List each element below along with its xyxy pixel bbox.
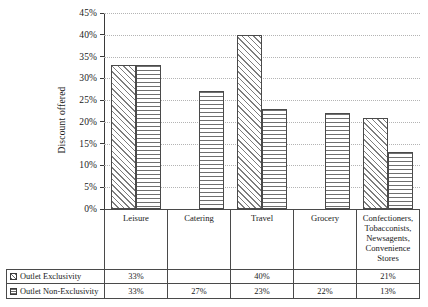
bar	[262, 109, 287, 209]
table-value-cell: 33%	[105, 270, 168, 283]
legend-swatch-non-exclusivity-icon	[10, 288, 17, 295]
category-label-line: Catering	[168, 213, 230, 223]
bar-group	[230, 13, 293, 209]
category-label-line: Stores	[357, 253, 419, 263]
category-label-line: Convenience	[357, 243, 419, 253]
table-value-cell: 33%	[105, 284, 168, 298]
category-label: Travel	[231, 210, 294, 269]
bar-group	[104, 13, 167, 209]
bar	[111, 65, 136, 209]
y-tick-label: 15%	[79, 139, 100, 149]
y-tick: 15%	[79, 138, 104, 150]
y-tick: 20%	[79, 116, 104, 128]
bar	[199, 91, 224, 209]
y-tick-label: 20%	[79, 117, 100, 127]
category-label: Catering	[168, 210, 231, 269]
legend-series-name: Outlet Exclusivity	[20, 272, 81, 281]
table-value-cell: 21%	[357, 270, 419, 283]
table-value-cell: 27%	[168, 284, 231, 298]
category-label-line: Newsagents,	[357, 233, 419, 243]
y-tick-label: 40%	[79, 30, 100, 40]
category-label-line: Confectioners,	[357, 213, 419, 223]
y-tick: 40%	[79, 29, 104, 41]
discount-offered-bar-chart: Discount offered 45%40%35%30%25%20%15%10…	[0, 0, 428, 307]
y-tick: 30%	[79, 72, 104, 84]
y-tick: 45%	[79, 7, 104, 19]
y-tick: 25%	[79, 94, 104, 106]
bar-group	[167, 13, 230, 209]
table-value-cell: 22%	[294, 284, 357, 298]
y-axis-ticks: 45%40%35%30%25%20%15%10%5%0%	[0, 13, 104, 209]
category-label-line: Travel	[231, 213, 293, 223]
table-value-cell	[294, 270, 357, 283]
category-label: Confectioners,Tobacconists,Newsagents,Co…	[357, 210, 419, 269]
bar	[136, 65, 161, 209]
category-label: Leisure	[105, 210, 168, 269]
y-tick: 5%	[84, 181, 104, 193]
y-tick-label: 30%	[79, 73, 100, 83]
table-value-cell: 40%	[231, 270, 294, 283]
y-tick-label: 45%	[79, 8, 100, 18]
category-label: Grocery	[294, 210, 357, 269]
y-tick: 0%	[84, 203, 104, 215]
table-value-cell: 23%	[231, 284, 294, 298]
bar	[237, 35, 262, 209]
y-tick-label: 5%	[84, 182, 100, 192]
bar	[363, 118, 388, 209]
y-tick-label: 25%	[79, 95, 100, 105]
table-value-cell	[168, 270, 231, 283]
bar	[325, 113, 350, 209]
table-value-cell: 13%	[357, 284, 419, 298]
category-axis-table: LeisureCateringTravelGroceryConfectioner…	[104, 209, 420, 269]
y-tick-label: 10%	[79, 160, 100, 170]
legend-cell: Outlet Exclusivity	[7, 270, 105, 283]
legend-cell: Outlet Non-Exclusivity	[7, 284, 105, 298]
bars-layer	[104, 13, 420, 209]
bar-group	[357, 13, 420, 209]
category-label-line: Grocery	[294, 213, 356, 223]
legend-swatch-exclusivity-icon	[10, 273, 17, 280]
series-data-table: Outlet Exclusivity33%40%21%Outlet Non-Ex…	[6, 269, 420, 299]
y-tick: 35%	[79, 51, 104, 63]
bar	[388, 152, 413, 209]
table-row: Outlet Exclusivity33%40%21%	[7, 270, 419, 284]
bar-group	[294, 13, 357, 209]
legend-series-name: Outlet Non-Exclusivity	[20, 287, 98, 296]
table-row: Outlet Non-Exclusivity33%27%23%22%13%	[7, 284, 419, 298]
y-tick: 10%	[79, 159, 104, 171]
category-label-line: Tobacconists,	[357, 223, 419, 233]
y-tick-label: 0%	[84, 204, 100, 214]
y-tick-label: 35%	[79, 52, 100, 62]
category-label-line: Leisure	[105, 213, 167, 223]
